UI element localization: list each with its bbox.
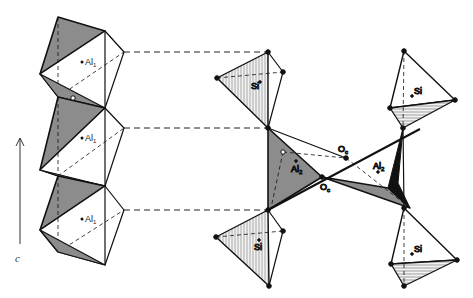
c-axis-label: c [15,252,20,264]
label-si-right-top: Si [414,86,422,96]
label-al2-right: Al2 [373,161,385,172]
si-tetrahedron-middle-bottom: Si [214,208,286,289]
si-tetrahedron-right-bottom: Si [389,206,460,289]
label-oc-upper: Oc [338,144,348,155]
label-si-middle-bottom: Si [254,242,262,252]
si-tetrahedron-right-top: Si [388,49,458,131]
crystal-structure-diagram: Al1 Al1 Al1 c Si [0,0,473,298]
right-group: Si Al2 Si [322,49,459,289]
al2-polyhedron-right: Al2 [322,128,410,208]
octahedra-chain [40,17,124,265]
octahedron-al1-middle [40,97,124,186]
label-si-middle-top: Si [251,81,259,91]
oxygen-marker [71,96,75,100]
label-oc-lower: Oc [320,182,330,193]
si-tetrahedron-middle-top: Si [215,50,286,131]
c-axis-arrow: c [15,138,24,264]
label-si-right-bottom: Si [414,244,422,254]
middle-group: Si Al2 Oc Oc Si [214,50,420,289]
